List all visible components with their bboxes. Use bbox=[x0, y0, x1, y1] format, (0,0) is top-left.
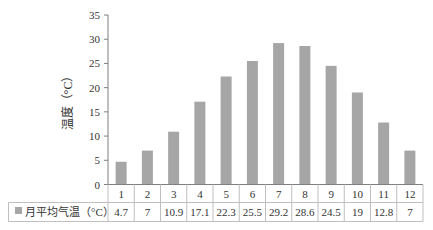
y-tick-label: 20 bbox=[89, 82, 101, 94]
table-value-cell: 17.1 bbox=[190, 206, 209, 218]
bar-month-4 bbox=[194, 102, 205, 185]
bar-month-7 bbox=[273, 43, 284, 184]
table-value-cell: 19 bbox=[352, 206, 364, 218]
x-category-label: 7 bbox=[276, 188, 282, 200]
table-value-cell: 4.7 bbox=[114, 206, 128, 218]
table-value-cell: 28.6 bbox=[295, 206, 315, 218]
y-tick-label: 0 bbox=[95, 179, 101, 191]
y-tick-label: 5 bbox=[95, 154, 101, 166]
x-category-label: 11 bbox=[378, 188, 389, 200]
x-category-label: 12 bbox=[404, 188, 415, 200]
x-category-label: 2 bbox=[145, 188, 151, 200]
x-category-label: 6 bbox=[250, 188, 256, 200]
x-category-label: 8 bbox=[302, 188, 308, 200]
table-value-cell: 24.5 bbox=[322, 206, 342, 218]
bar-chart: 05101520253035 温度（°C） 14.727310.9417.152… bbox=[0, 0, 433, 230]
x-category-label: 3 bbox=[171, 188, 177, 200]
x-category-label: 1 bbox=[118, 188, 124, 200]
bar-month-8 bbox=[299, 46, 310, 185]
bar-month-2 bbox=[142, 151, 153, 185]
bar-month-10 bbox=[352, 92, 363, 184]
table-value-cell: 7 bbox=[407, 206, 413, 218]
legend-series-name: 月平均气温（°C） bbox=[25, 205, 114, 218]
y-tick-label: 15 bbox=[89, 106, 101, 118]
bar-month-1 bbox=[116, 162, 127, 185]
x-category-label: 4 bbox=[197, 188, 203, 200]
bar-month-9 bbox=[326, 66, 337, 185]
table-value-cell: 22.3 bbox=[217, 206, 237, 218]
y-axis-label: 温度（°C） bbox=[60, 70, 75, 131]
bars bbox=[116, 43, 416, 184]
table-value-cell: 29.2 bbox=[269, 206, 288, 218]
x-category-label: 10 bbox=[352, 188, 364, 200]
table-value-cell: 25.5 bbox=[243, 206, 263, 218]
legend-swatch bbox=[15, 207, 22, 214]
x-category-label: 5 bbox=[223, 188, 229, 200]
y-tick-label: 30 bbox=[89, 33, 101, 45]
table-value-cell: 10.9 bbox=[164, 206, 184, 218]
table-value-cell: 12.8 bbox=[374, 206, 394, 218]
y-tick-label: 10 bbox=[89, 130, 101, 142]
x-category-label: 9 bbox=[328, 188, 334, 200]
bar-month-6 bbox=[247, 61, 258, 184]
y-axis-ticks: 05101520253035 bbox=[89, 9, 108, 191]
table-value-cell: 7 bbox=[145, 206, 151, 218]
bar-month-3 bbox=[168, 132, 179, 185]
y-tick-label: 35 bbox=[89, 9, 101, 21]
bar-month-5 bbox=[221, 77, 232, 185]
data-table: 14.727310.9417.1522.3625.5729.2828.6924.… bbox=[9, 185, 424, 222]
bar-month-12 bbox=[404, 151, 415, 185]
y-tick-label: 25 bbox=[89, 57, 101, 69]
bar-month-11 bbox=[378, 123, 389, 185]
